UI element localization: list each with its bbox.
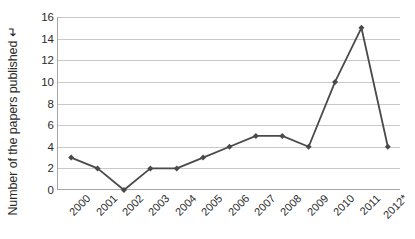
series-line [71,28,388,190]
y-tick-label: 8 [32,98,54,110]
y-tick-label: 12 [32,54,54,66]
data-point-marker [200,155,206,161]
data-point-marker [253,133,259,139]
data-point-marker [279,133,285,139]
y-tick-label: 10 [32,76,54,88]
data-series-line [58,17,401,190]
y-tick-label: 4 [32,141,54,153]
data-point-marker [174,165,180,171]
data-point-marker [306,144,312,150]
data-point-marker [358,25,364,31]
data-point-marker [68,155,74,161]
data-point-marker [332,79,338,85]
data-point-marker [227,144,233,150]
y-tick-label: 0 [32,184,54,196]
y-axis-title: Number of the papers published ↵ [0,26,26,216]
plot-area [57,17,400,190]
line-chart-figure: Number of the papers published ↵ 0246810… [0,0,415,239]
y-axis-tick-labels: 0246810121416 [32,11,54,195]
data-point-marker [385,144,391,150]
y-tick-label: 2 [32,162,54,174]
y-tick-label: 16 [32,11,54,23]
x-axis-tick-labels: 2000200120022003200420052006200720082009… [57,192,400,239]
y-tick-label: 14 [32,33,54,45]
y-tick-label: 6 [32,119,54,131]
